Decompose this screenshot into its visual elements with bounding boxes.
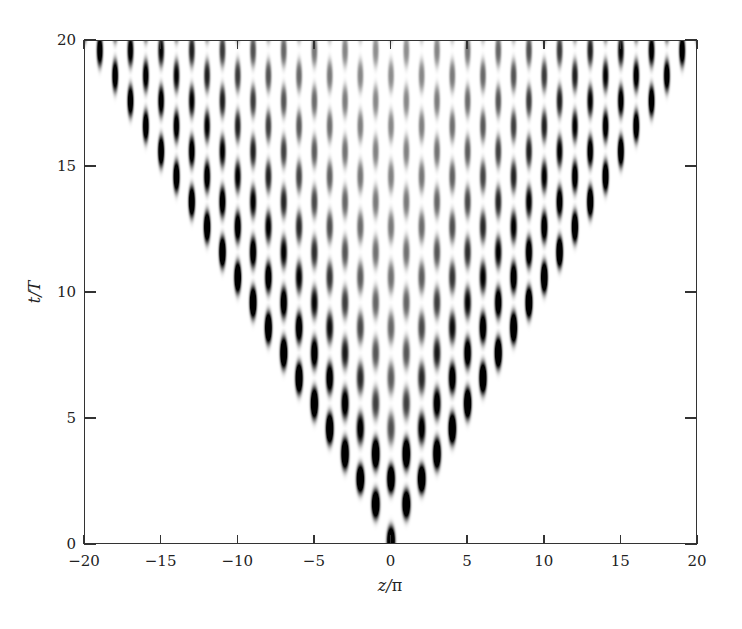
x-tick-mark (696, 40, 698, 49)
x-tick-mark (390, 535, 392, 544)
x-tick-label: 10 (534, 552, 553, 570)
y-tick-mark (84, 417, 96, 419)
y-tick-mark (685, 417, 697, 419)
y-tick-label: 0 (0, 535, 76, 553)
x-tick-mark (620, 535, 622, 544)
x-tick-label: −5 (303, 552, 325, 570)
x-tick-mark (160, 40, 162, 49)
y-tick-mark (84, 165, 96, 167)
x-tick-mark (543, 40, 545, 49)
heatmap-plot-area (84, 40, 697, 544)
x-tick-mark (390, 40, 392, 49)
x-tick-label: 0 (386, 552, 396, 570)
y-tick-mark (84, 291, 96, 293)
x-tick-mark (313, 40, 315, 49)
x-tick-label: 20 (687, 552, 706, 570)
y-tick-label: 15 (0, 157, 76, 175)
figure: z/π t/T −20−15−10−50510152005101520 (0, 0, 742, 629)
x-tick-label: −20 (68, 552, 100, 570)
x-tick-mark (620, 40, 622, 49)
x-tick-label: −15 (145, 552, 177, 570)
x-tick-mark (237, 40, 239, 49)
x-tick-mark (83, 40, 85, 49)
x-tick-mark (160, 535, 162, 544)
y-tick-label: 5 (0, 409, 76, 427)
y-tick-mark (685, 543, 697, 545)
x-tick-label: 15 (611, 552, 630, 570)
y-tick-mark (84, 543, 96, 545)
x-tick-mark (237, 535, 239, 544)
x-tick-mark (313, 535, 315, 544)
x-tick-label: −10 (221, 552, 253, 570)
y-tick-mark (685, 165, 697, 167)
x-tick-mark (466, 535, 468, 544)
y-tick-mark (84, 39, 96, 41)
x-tick-mark (466, 40, 468, 49)
x-tick-label: 5 (462, 552, 472, 570)
x-axis-label: z/π (378, 576, 402, 595)
y-tick-label: 20 (0, 31, 76, 49)
y-tick-mark (685, 39, 697, 41)
x-tick-mark (543, 535, 545, 544)
y-tick-mark (685, 291, 697, 293)
y-tick-label: 10 (0, 283, 76, 301)
